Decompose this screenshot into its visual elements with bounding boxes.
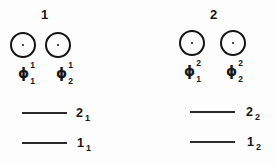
phi-subscript: 1 xyxy=(30,77,35,86)
circle-center-dot xyxy=(57,44,60,47)
phi-symbol: ϕ xyxy=(226,64,237,78)
circle-center-dot xyxy=(22,44,25,47)
energy-level-label-upper-2: 22 xyxy=(246,106,260,122)
group-2-title: 2 xyxy=(210,7,217,22)
phi-symbol: ϕ xyxy=(56,66,67,80)
phi-superscript: 2 xyxy=(238,59,243,68)
orbital-circle-1-2 xyxy=(45,32,71,58)
level-subscript: 2 xyxy=(256,142,261,152)
level-number: 1 xyxy=(247,135,254,149)
orbital-circle-2-2 xyxy=(220,30,246,56)
level-subscript: 2 xyxy=(255,112,260,122)
group-1-title: 1 xyxy=(41,7,48,22)
phi-scripts: 2 1 xyxy=(196,59,201,83)
level-subscript: 1 xyxy=(86,143,91,153)
orbital-circle-1-1 xyxy=(10,32,36,58)
phi-scripts: 2 2 xyxy=(238,59,243,83)
phi-superscript: 1 xyxy=(68,61,73,70)
level-subscript: 1 xyxy=(85,113,90,123)
energy-level-line-upper-2 xyxy=(190,111,235,113)
two-group-level-diagram: 1 ϕ 1 1 ϕ 1 2 21 11 2 ϕ 2 1 xyxy=(0,0,276,165)
energy-level-label-lower-1: 11 xyxy=(77,137,91,153)
phi-scripts: 1 1 xyxy=(30,61,35,85)
energy-level-line-upper-1 xyxy=(22,112,67,114)
energy-level-label-upper-1: 21 xyxy=(76,107,90,123)
orbital-circle-2-1 xyxy=(179,30,205,56)
phi-scripts: 1 2 xyxy=(68,61,73,85)
orbital-label-phi-1-1: ϕ 1 1 xyxy=(18,60,35,86)
circle-center-dot xyxy=(232,42,235,45)
level-number: 1 xyxy=(77,136,84,150)
energy-level-label-lower-2: 12 xyxy=(247,136,261,152)
circle-center-dot xyxy=(191,42,194,45)
orbital-label-phi-2-2: ϕ 2 2 xyxy=(226,58,243,84)
orbital-label-phi-1-2: ϕ 1 2 xyxy=(56,60,73,86)
phi-subscript: 1 xyxy=(196,75,201,84)
phi-symbol: ϕ xyxy=(184,64,195,78)
energy-level-line-lower-1 xyxy=(22,142,67,144)
level-number: 2 xyxy=(76,106,83,120)
phi-superscript: 2 xyxy=(196,59,201,68)
level-number: 2 xyxy=(246,105,253,119)
orbital-label-phi-2-1: ϕ 2 1 xyxy=(184,58,201,84)
phi-symbol: ϕ xyxy=(18,66,29,80)
phi-subscript: 2 xyxy=(238,75,243,84)
phi-subscript: 2 xyxy=(68,77,73,86)
phi-superscript: 1 xyxy=(30,61,35,70)
energy-level-line-lower-2 xyxy=(190,141,235,143)
